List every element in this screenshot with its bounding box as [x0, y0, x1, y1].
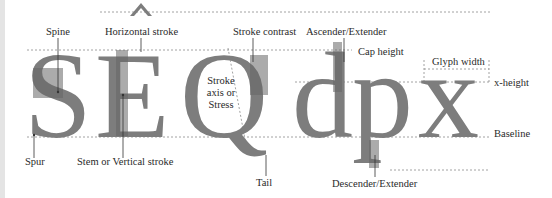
- circumflex-accent: [130, 3, 152, 16]
- label-spine: Spine: [46, 26, 70, 38]
- label-baseline: Baseline: [494, 128, 530, 140]
- label-stroke-axis-line1: Stroke: [203, 75, 239, 87]
- label-stroke-axis: Stroke axis or Stress: [203, 75, 239, 111]
- label-stroke-axis-line2: axis or: [203, 87, 239, 99]
- glyph-E: E: [95, 28, 170, 163]
- label-horizontal-stroke: Horizontal stroke: [105, 26, 178, 38]
- label-stroke-contrast: Stroke contrast: [233, 26, 296, 38]
- label-stem: Stem or Vertical stroke: [77, 156, 173, 168]
- label-ascender: Ascender/Extender: [306, 26, 386, 38]
- glyph-x: x: [418, 28, 479, 163]
- label-descender: Descender/Extender: [332, 178, 417, 190]
- label-tail: Tail: [256, 177, 272, 189]
- label-x-height: x-height: [494, 77, 529, 89]
- label-cap-height: Cap height: [358, 46, 404, 58]
- glyphs: S E Q d p x: [24, 28, 479, 163]
- label-glyph-width: Glyph width: [432, 56, 485, 68]
- label-spur: Spur: [25, 156, 45, 168]
- label-stroke-axis-line3: Stress: [203, 99, 239, 111]
